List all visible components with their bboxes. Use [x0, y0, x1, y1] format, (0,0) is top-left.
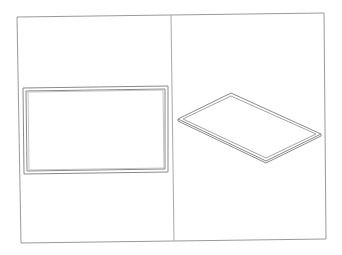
- front-view-inner-opening: [28, 90, 164, 170]
- view-divider: [171, 15, 174, 241]
- front-view-outer-edge: [23, 86, 168, 174]
- front-view: [23, 86, 168, 174]
- isometric-plate-thickness: [178, 119, 321, 163]
- technical-drawing-sheet: [0, 0, 342, 255]
- front-view-inner-edge: [26, 89, 165, 171]
- isometric-view: [178, 93, 321, 163]
